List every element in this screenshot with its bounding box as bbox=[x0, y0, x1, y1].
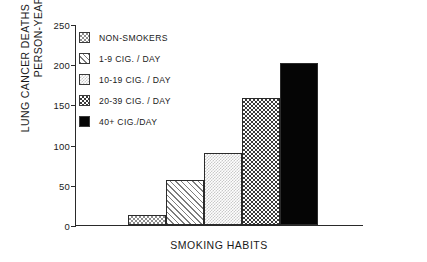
legend-item: 20-39 CIG. / DAY bbox=[79, 90, 229, 111]
legend-item: 10-19 CIG. / DAY bbox=[79, 69, 229, 90]
y-tick-label: 200 bbox=[54, 60, 70, 71]
legend-label: 10-19 CIG. / DAY bbox=[99, 75, 171, 85]
legend-swatch-icon bbox=[79, 74, 90, 85]
legend-label: 40+ CIG./DAY bbox=[99, 117, 157, 127]
legend-item: 1-9 CIG. / DAY bbox=[79, 48, 229, 69]
bar-1 bbox=[128, 215, 166, 225]
legend: NON-SMOKERS1-9 CIG. / DAY10-19 CIG. / DA… bbox=[79, 27, 229, 132]
y-tick-label: 0 bbox=[65, 221, 70, 232]
legend-label: 20-39 CIG. / DAY bbox=[99, 96, 171, 106]
y-tick-label: 100 bbox=[54, 140, 70, 151]
y-axis-label-line-1: LUNG CANCER DEATHS PER 100,000 bbox=[19, 0, 32, 132]
x-axis-label: SMOKING HABITS bbox=[75, 239, 363, 251]
bar-4 bbox=[242, 98, 280, 225]
legend-label: NON-SMOKERS bbox=[99, 33, 168, 43]
y-axis-label: LUNG CANCER DEATHS PER 100,000 PERSON-YE… bbox=[17, 0, 47, 153]
legend-swatch-icon bbox=[79, 32, 90, 43]
legend-item: NON-SMOKERS bbox=[79, 27, 229, 48]
y-axis-label-line-2: PERSON-YEARS bbox=[32, 0, 45, 77]
y-tick-label: 150 bbox=[54, 100, 70, 111]
legend-item: 40+ CIG./DAY bbox=[79, 111, 229, 132]
legend-label: 1-9 CIG. / DAY bbox=[99, 54, 161, 64]
bar-2 bbox=[166, 180, 204, 225]
legend-swatch-icon bbox=[79, 53, 90, 64]
legend-swatch-icon bbox=[79, 95, 90, 106]
y-tick-label: 50 bbox=[59, 180, 70, 191]
bar-3 bbox=[204, 153, 242, 225]
bar-5 bbox=[280, 63, 318, 225]
bar-chart-figure: LUNG CANCER DEATHS PER 100,000 PERSON-YE… bbox=[0, 0, 427, 262]
y-tick-label: 250 bbox=[54, 20, 70, 31]
legend-swatch-icon bbox=[79, 116, 90, 127]
y-tick-mark bbox=[71, 226, 76, 227]
